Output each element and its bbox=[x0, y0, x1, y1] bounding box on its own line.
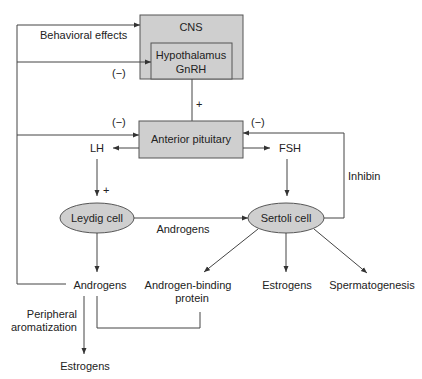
estrogens-peripheral-label: Estrogens bbox=[60, 360, 110, 372]
neg-pituitary-right-label: (−) bbox=[251, 116, 265, 128]
spermatogenesis-label: Spermatogenesis bbox=[329, 279, 415, 291]
abp-label-line2: protein bbox=[175, 292, 209, 304]
lh-label: LH bbox=[90, 142, 104, 154]
abp-label-line1: Androgen-binding bbox=[145, 279, 232, 291]
androgens-edge-label: Androgens bbox=[156, 223, 210, 235]
neg-pituitary-left-label: (−) bbox=[112, 116, 126, 128]
plus-gnrh-label: + bbox=[196, 98, 202, 110]
sertoli-cell-label: Sertoli cell bbox=[261, 212, 312, 224]
diagram-canvas: CNS Hypothalamus GnRH Behavioral effects… bbox=[0, 0, 422, 379]
androgens-label: Androgens bbox=[73, 279, 127, 291]
behavioral-effects-label: Behavioral effects bbox=[40, 29, 128, 41]
peripheral-label-line2: aromatization bbox=[11, 321, 77, 333]
fsh-label: FSH bbox=[279, 142, 301, 154]
hypothalamus-label: Hypothalamus bbox=[156, 49, 227, 61]
peripheral-label-line1: Peripheral bbox=[27, 308, 77, 320]
arrow-sertoli-to-spermatogenesis bbox=[314, 229, 367, 273]
cns-label: CNS bbox=[179, 21, 202, 33]
arrow-sertoli-to-abp bbox=[204, 229, 258, 272]
anterior-pituitary-label: Anterior pituitary bbox=[151, 133, 232, 145]
leydig-cell-label: Leydig cell bbox=[71, 212, 123, 224]
plus-lh-label: + bbox=[103, 184, 109, 196]
neg-hypothalamus-label: (−) bbox=[112, 67, 126, 79]
inhibin-label: Inhibin bbox=[348, 170, 380, 182]
gnrh-label: GnRH bbox=[176, 63, 207, 75]
estrogens-sertoli-label: Estrogens bbox=[262, 279, 312, 291]
